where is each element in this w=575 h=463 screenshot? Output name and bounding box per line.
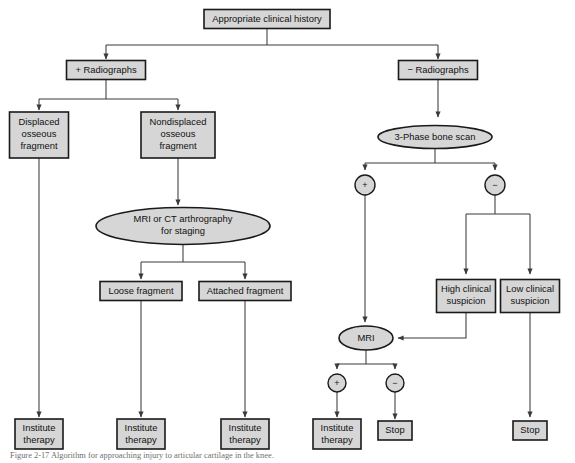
node-attached-fragment[interactable]: Attached fragment	[199, 282, 291, 301]
node-mri[interactable]: MRI	[339, 326, 393, 350]
node-label-therapy-4-line-2: therapy	[321, 434, 353, 445]
node-label-therapy-1-line-1: Institute	[23, 422, 56, 433]
node-label-three-phase-bone-scan: 3-Phase bone scan	[395, 131, 476, 142]
node-label-stop-1: Stop	[385, 424, 404, 435]
node-institute-therapy-4[interactable]: Institute therapy	[313, 419, 361, 449]
node-label-appropriate-clinical-history: Appropriate clinical history	[212, 13, 322, 24]
node-label-mri: MRI	[357, 332, 374, 343]
figure-root: Appropriate clinical history + Radiograp…	[0, 0, 575, 463]
node-displaced-osseous-fragment[interactable]: Displaced osseous fragment	[10, 112, 69, 158]
node-label-nondisplaced-line-3: fragment	[160, 140, 197, 151]
node-label-mri-positive: +	[334, 378, 339, 388]
node-label-positive-radiographs: + Radiographs	[75, 64, 137, 75]
node-stop-1[interactable]: Stop	[378, 421, 412, 440]
node-label-loose-fragment: Loose fragment	[108, 285, 174, 296]
node-label-therapy-2-line-2: therapy	[125, 434, 157, 445]
node-high-clinical-suspicion[interactable]: High clinical suspicion	[437, 280, 496, 313]
figure-caption: Figure 2-17 Algorithm for approaching in…	[10, 451, 570, 461]
node-label-therapy-4-line-1: Institute	[321, 422, 354, 433]
node-label-therapy-3-line-1: Institute	[229, 422, 262, 433]
node-label-mri-negative: −	[392, 378, 397, 388]
node-label-stop-2: Stop	[520, 424, 539, 435]
node-stop-2[interactable]: Stop	[513, 421, 547, 440]
node-low-clinical-suspicion[interactable]: Low clinical suspicion	[501, 280, 560, 313]
node-appropriate-clinical-history[interactable]: Appropriate clinical history	[204, 10, 330, 29]
node-institute-therapy-1[interactable]: Institute therapy	[15, 419, 63, 449]
node-label-mri-ct-line-2: for staging	[161, 225, 205, 236]
node-label-high-suspicion-line-1: High clinical	[441, 283, 491, 294]
node-label-low-suspicion-line-2: suspicion	[510, 295, 549, 306]
node-mri-negative[interactable]: −	[386, 374, 404, 392]
node-label-therapy-2-line-1: Institute	[125, 422, 158, 433]
flowchart-diagram: Appropriate clinical history + Radiograp…	[0, 0, 575, 463]
node-three-phase-bone-scan[interactable]: 3-Phase bone scan	[378, 126, 492, 149]
node-label-bone-scan-negative: −	[492, 180, 497, 190]
node-label-displaced-line-1: Displaced	[18, 116, 59, 127]
node-bone-scan-negative[interactable]: −	[485, 175, 505, 195]
node-label-high-suspicion-line-2: suspicion	[446, 295, 485, 306]
node-label-negative-radiographs: − Radiographs	[407, 64, 469, 75]
node-mri-or-ct-arthrography[interactable]: MRI or CT arthrography for staging	[96, 208, 270, 245]
node-mri-positive[interactable]: +	[328, 374, 346, 392]
node-label-nondisplaced-line-1: Nondisplaced	[150, 116, 207, 127]
node-negative-radiographs[interactable]: − Radiographs	[399, 61, 478, 80]
node-label-displaced-line-3: fragment	[21, 140, 58, 151]
node-label-therapy-1-line-2: therapy	[23, 434, 55, 445]
node-label-therapy-3-line-2: therapy	[229, 434, 261, 445]
edge-high-suspicion-to-mri	[398, 313, 466, 339]
node-label-attached-fragment: Attached fragment	[207, 285, 284, 296]
node-label-mri-ct-line-1: MRI or CT arthrography	[134, 213, 233, 224]
node-label-nondisplaced-line-2: osseous	[161, 128, 196, 139]
node-label-low-suspicion-line-1: Low clinical	[506, 283, 554, 294]
node-label-bone-scan-positive: +	[362, 180, 367, 190]
node-positive-radiographs[interactable]: + Radiographs	[67, 61, 146, 80]
node-nondisplaced-osseous-fragment[interactable]: Nondisplaced osseous fragment	[141, 112, 215, 158]
node-bone-scan-positive[interactable]: +	[355, 175, 375, 195]
node-label-displaced-line-2: osseous	[22, 128, 57, 139]
node-loose-fragment[interactable]: Loose fragment	[100, 282, 182, 301]
node-institute-therapy-3[interactable]: Institute therapy	[221, 419, 269, 449]
node-institute-therapy-2[interactable]: Institute therapy	[117, 419, 165, 449]
